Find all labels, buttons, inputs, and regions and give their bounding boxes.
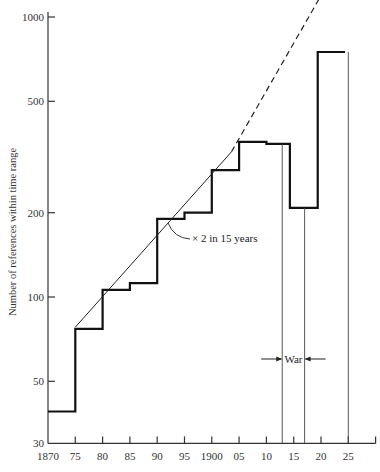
x-tick-label: 25 — [343, 450, 355, 462]
y-axis-label: Number of references within time range — [7, 148, 18, 317]
y-tick-label: 1000 — [22, 11, 45, 23]
x-tick-label: 20 — [316, 450, 328, 462]
y-tick-label: 50 — [33, 375, 45, 387]
reference-lines — [282, 52, 348, 443]
x-tick-label: 80 — [97, 450, 109, 462]
annotations: War — [261, 353, 325, 365]
war-left-arrowhead — [276, 357, 282, 362]
trend-label: × 2 in 15 years — [192, 232, 257, 244]
x-tick-label: 15 — [288, 450, 300, 462]
x-tick-label: 95 — [179, 450, 191, 462]
x-tick-label: 1900 — [201, 450, 224, 462]
x-tick-label: 05 — [234, 450, 246, 462]
y-tick-label: 500 — [28, 95, 45, 107]
x-tick-label: 75 — [70, 450, 82, 462]
trend-label-leader — [168, 223, 190, 239]
x-tick-label: 1870 — [37, 450, 60, 462]
axes — [48, 12, 376, 443]
trend-dashed-line — [231, 0, 351, 152]
y-tick-label: 200 — [28, 207, 45, 219]
trend-line — [75, 0, 351, 327]
y-tick-label: 100 — [28, 291, 45, 303]
war-right-arrowhead — [305, 357, 311, 362]
y-tick-label: 30 — [33, 437, 45, 449]
x-tick-label: 85 — [124, 450, 136, 462]
x-tick-label: 10 — [261, 450, 273, 462]
chart: 1000500200100503018707580859095190005101… — [0, 0, 380, 472]
war-label: War — [284, 353, 302, 365]
x-tick-label: 90 — [152, 450, 164, 462]
